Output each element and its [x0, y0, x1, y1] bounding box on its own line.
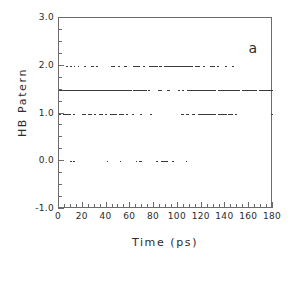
x-tick-major [129, 202, 130, 208]
x-tick-major [177, 202, 178, 208]
y-tick-label: 3.0 [20, 13, 54, 22]
data-point [186, 161, 187, 162]
plot-data-area [59, 18, 273, 209]
data-point [141, 114, 142, 115]
y-tick-major [58, 113, 64, 114]
y-tick-major [58, 208, 64, 209]
x-tick-major [248, 202, 249, 208]
x-tick-minor [147, 204, 148, 208]
data-point [91, 114, 92, 115]
data-point [119, 66, 120, 67]
x-tick-minor [219, 204, 220, 208]
data-point [102, 114, 103, 115]
x-tick-major [153, 202, 154, 208]
x-tick-minor [260, 204, 261, 208]
data-point [233, 66, 234, 67]
y-tick-minor [58, 172, 62, 173]
x-tick-minor [94, 204, 95, 208]
y-axis-title: HB Patern [16, 33, 29, 173]
data-point [106, 114, 107, 115]
data-point [85, 66, 86, 67]
y-tick-minor [58, 89, 62, 90]
x-axis-title: Time (ps) [58, 236, 272, 249]
x-tick-minor [242, 204, 243, 208]
data-point [194, 114, 195, 115]
data-point [74, 66, 75, 67]
plot-frame: a [58, 17, 272, 208]
y-tick-minor [58, 29, 62, 30]
x-tick-minor [123, 204, 124, 208]
data-point [272, 90, 273, 91]
data-point [126, 66, 127, 67]
x-tick-minor [76, 204, 77, 208]
figure-panel-a: HB Patern Time (ps) a -1.00.01.02.03.0 0… [0, 0, 290, 284]
y-tick-major [58, 17, 64, 18]
x-tick-minor [254, 204, 255, 208]
x-tick-minor [266, 204, 267, 208]
x-tick-major [82, 202, 83, 208]
y-tick-minor [58, 184, 62, 185]
data-point [151, 114, 152, 115]
data-point [218, 66, 219, 67]
data-point [136, 161, 137, 162]
data-point [236, 114, 237, 115]
data-point [74, 161, 75, 162]
x-tick-major [58, 202, 59, 208]
data-point [127, 114, 128, 115]
x-tick-major [106, 202, 107, 208]
data-point [71, 66, 72, 67]
data-point [123, 114, 124, 115]
data-point [173, 161, 174, 162]
data-point [85, 114, 86, 115]
y-tick-minor [58, 124, 62, 125]
data-point [226, 66, 227, 67]
data-point [93, 66, 94, 67]
data-point [146, 90, 147, 91]
data-point [183, 90, 184, 91]
data-point [214, 66, 215, 67]
data-point [169, 90, 170, 91]
data-point [74, 114, 75, 115]
y-tick-major [58, 160, 64, 161]
data-point [97, 66, 98, 67]
data-point [144, 66, 145, 67]
data-point [95, 114, 96, 115]
data-point [161, 66, 162, 67]
data-point [67, 66, 68, 67]
panel-label: a [248, 40, 257, 56]
data-point [157, 66, 158, 67]
data-point [204, 66, 205, 67]
data-point [226, 114, 227, 115]
data-point [239, 90, 240, 91]
x-tick-label: 180 [257, 212, 287, 221]
x-tick-minor [171, 204, 172, 208]
x-tick-major [224, 202, 225, 208]
y-tick-minor [58, 101, 62, 102]
y-tick-minor [58, 41, 62, 42]
x-tick-minor [230, 204, 231, 208]
y-tick-minor [58, 148, 62, 149]
data-point [188, 114, 189, 115]
x-tick-major [272, 202, 273, 208]
data-point [256, 90, 257, 91]
data-point [60, 114, 61, 115]
data-point [149, 90, 150, 91]
data-point [199, 66, 200, 67]
data-point [232, 114, 233, 115]
data-point [161, 90, 162, 91]
x-tick-minor [112, 204, 113, 208]
data-point [167, 161, 168, 162]
y-tick-minor [58, 53, 62, 54]
y-tick-label: 2.0 [20, 61, 54, 70]
data-point [133, 114, 134, 115]
data-point [70, 114, 71, 115]
x-tick-minor [88, 204, 89, 208]
x-tick-major [201, 202, 202, 208]
x-tick-minor [183, 204, 184, 208]
y-tick-minor [58, 77, 62, 78]
data-point [139, 66, 140, 67]
x-tick-minor [236, 204, 237, 208]
data-point [215, 114, 216, 115]
x-tick-minor [165, 204, 166, 208]
y-tick-minor [58, 136, 62, 137]
